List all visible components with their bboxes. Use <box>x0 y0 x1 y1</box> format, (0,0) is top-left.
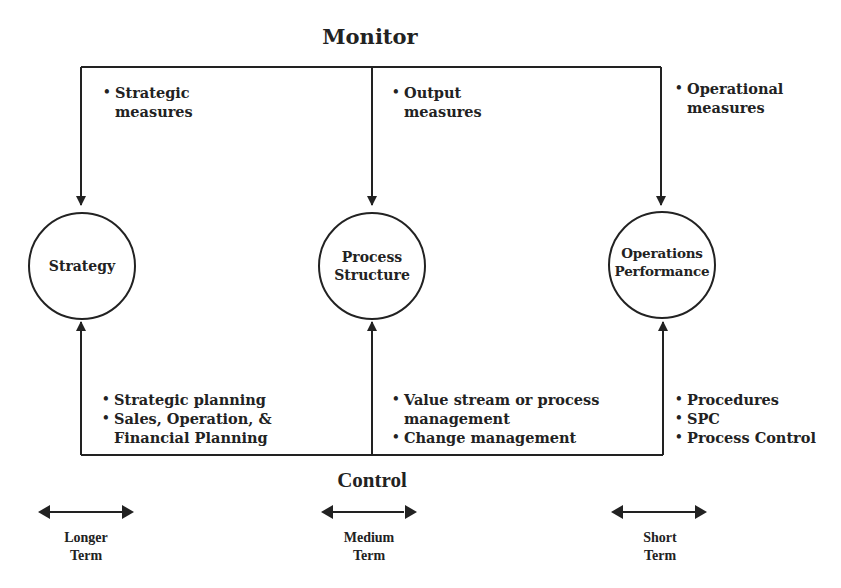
list-item: Sales, Operation, & Financial Planning <box>102 409 272 447</box>
process-structure-control-list: Value stream or process management Chang… <box>392 390 599 447</box>
time-horizon-arrows <box>38 505 707 519</box>
short-term-arrow-icon <box>611 505 707 519</box>
list-item: Change management <box>392 428 599 447</box>
list-item: SPC <box>675 409 816 428</box>
list-item: Output measures <box>392 83 482 121</box>
control-title: Control <box>337 468 407 493</box>
operational-measures-list: Operational measures <box>675 79 783 117</box>
operations-performance-label: Operations Performance <box>615 244 710 280</box>
strategic-measures-list: Strategic measures <box>103 83 193 121</box>
longer-term-label: Longer Term <box>64 529 108 565</box>
list-item: Procedures <box>675 390 816 409</box>
monitor-title: Monitor <box>322 24 417 49</box>
longer-term-arrow-icon <box>38 505 134 519</box>
strategy-label: Strategy <box>49 257 115 275</box>
short-term-label: Short Term <box>643 529 676 565</box>
list-item: Operational measures <box>675 79 783 117</box>
process-structure-label: Process Structure <box>334 248 410 284</box>
output-measures-list: Output measures <box>392 83 482 121</box>
medium-term-arrow-icon <box>321 505 417 519</box>
list-item: Value stream or process management <box>392 390 599 428</box>
list-item: Strategic measures <box>103 83 193 121</box>
strategy-control-list: Strategic planning Sales, Operation, & F… <box>102 390 272 447</box>
list-item: Process Control <box>675 428 816 447</box>
list-item: Strategic planning <box>102 390 272 409</box>
operations-control-list: Procedures SPC Process Control <box>675 390 816 447</box>
medium-term-label: Medium Term <box>344 529 395 565</box>
